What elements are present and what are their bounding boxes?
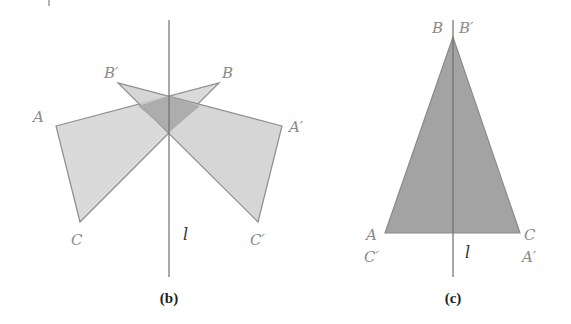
axis-label-l: l <box>183 225 188 244</box>
figure-c: B B′ A C′ C A′ l (c) <box>364 19 537 307</box>
vertex-label-a-prime: A′ <box>520 248 537 266</box>
vertex-label-a-prime: A′ <box>287 118 304 136</box>
figure-b: A B′ B A′ C C′ l (b) <box>31 20 304 307</box>
vertex-label-b: B <box>431 19 443 37</box>
vertex-label-c: C <box>524 226 536 244</box>
caption-c: (c) <box>445 290 462 307</box>
caption-b: (b) <box>160 290 178 307</box>
vertex-label-b-prime: B′ <box>458 19 474 37</box>
vertex-label-a: A <box>364 226 377 244</box>
reflection-figure: A B′ B A′ C C′ l (b) B B′ A C′ C A′ l (c… <box>0 0 571 324</box>
axis-label-l: l <box>465 243 470 262</box>
vertex-label-c: C <box>71 231 83 249</box>
vertex-label-b: B <box>221 64 233 82</box>
vertex-label-a: A <box>31 108 44 126</box>
vertex-label-b-prime: B′ <box>103 64 119 82</box>
vertex-label-c-prime: C′ <box>364 248 379 266</box>
vertex-label-c-prime: C′ <box>250 231 265 249</box>
